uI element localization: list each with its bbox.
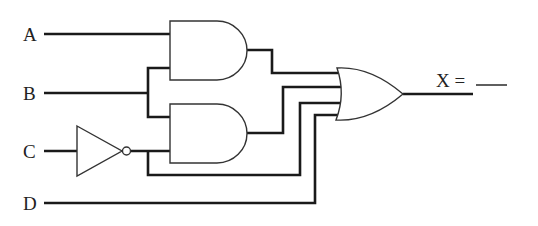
output-label: X = (436, 70, 465, 91)
and-gate-2 (170, 104, 247, 163)
wire-b-branch (148, 68, 170, 117)
wire-and1-to-or (247, 50, 338, 73)
input-label-d: D (23, 193, 37, 214)
not-bubble-icon (123, 147, 131, 155)
or-gate (336, 68, 403, 120)
logic-circuit: A B C D X = (0, 0, 538, 226)
not-gate (77, 126, 122, 176)
and-gate-1 (170, 21, 247, 80)
input-label-b: B (23, 83, 36, 104)
input-label-c: C (23, 141, 36, 162)
wire-and2-to-or (247, 87, 341, 133)
input-label-a: A (23, 24, 37, 45)
